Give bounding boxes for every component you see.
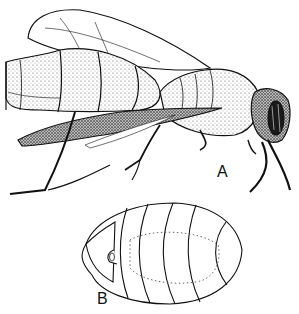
label-a: A (217, 163, 228, 181)
antenna (268, 140, 290, 190)
larva-body (82, 203, 242, 304)
label-b: B (97, 290, 108, 308)
thorax (160, 69, 259, 136)
compound-eye (268, 101, 284, 135)
wasp-illustration (0, 0, 299, 314)
larva-figure-b (82, 203, 242, 304)
wasp-figure-a (6, 10, 290, 194)
